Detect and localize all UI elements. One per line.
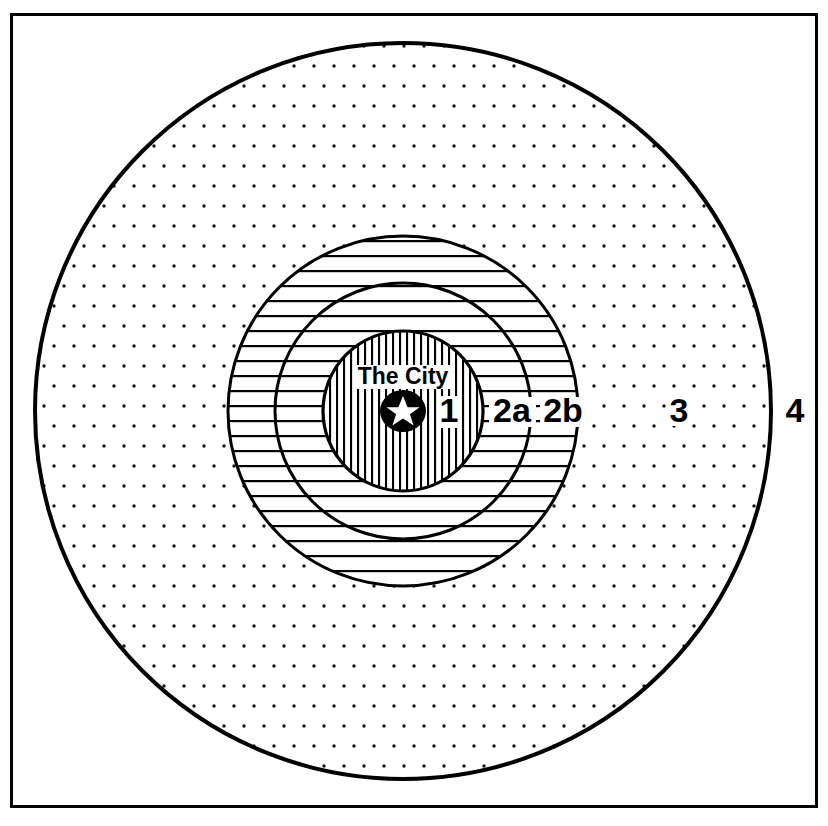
diagram-root: The City 1 2a 2b 3 4 [0,0,828,826]
zone-label-1-text: 1 [440,391,459,429]
zone-label-3-text: 3 [670,391,689,429]
zone-label-2a: 2a [489,391,536,429]
concentric-zone-diagram: The City 1 2a 2b 3 4 [0,0,828,826]
zone-label-4-text: 4 [786,391,805,429]
zone-label-4: 4 [786,391,805,429]
zone-label-2b-text: 2b [543,391,583,429]
city-label: The City [358,363,449,389]
zone-label-1: 1 [440,391,460,429]
zone-label-2b: 2b [540,391,588,429]
zone-label-3: 3 [668,391,690,429]
zone-label-2a-text: 2a [493,391,532,429]
